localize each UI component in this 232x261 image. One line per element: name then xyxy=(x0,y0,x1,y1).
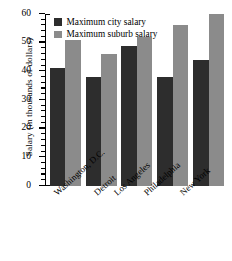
y-tick-major: 60 xyxy=(39,13,45,14)
y-tick-minor xyxy=(41,65,45,66)
y-tick-major: 50 xyxy=(39,41,45,42)
y-tick-label: 10 xyxy=(22,151,32,161)
y-tick-minor xyxy=(41,179,45,180)
legend-label-city: Maximum city salary xyxy=(67,16,147,28)
y-tick-major: 30 xyxy=(39,99,45,100)
y-tick-major: 0 xyxy=(39,185,45,186)
y-tick-minor xyxy=(41,87,45,88)
y-tick-minor xyxy=(41,24,45,25)
chart-legend: Maximum city salary Maximum suburb salar… xyxy=(54,16,157,41)
y-tick-minor xyxy=(41,139,45,140)
y-tick-minor xyxy=(41,53,45,54)
y-tick-minor xyxy=(41,47,45,48)
y-tick-minor xyxy=(41,173,45,174)
y-tick-minor xyxy=(41,168,45,169)
y-tick-minor xyxy=(41,110,45,111)
y-tick-minor xyxy=(41,116,45,117)
y-tick-major: 20 xyxy=(39,127,45,128)
y-tick-minor xyxy=(41,93,45,94)
y-tick-minor xyxy=(41,145,45,146)
y-tick-minor xyxy=(41,59,45,60)
y-tick-minor xyxy=(41,151,45,152)
legend-item-city: Maximum city salary xyxy=(54,16,157,28)
y-tick-major: 40 xyxy=(39,70,45,71)
y-tick-minor xyxy=(41,105,45,106)
y-tick-minor xyxy=(41,162,45,163)
y-tick-minor xyxy=(41,133,45,134)
legend-item-suburb: Maximum suburb salary xyxy=(54,28,157,40)
bar-chart-figure: Salary (in thousands of dollars) 0102030… xyxy=(0,0,232,261)
bar-suburb xyxy=(101,54,117,186)
y-tick-minor xyxy=(41,36,45,37)
bar-city xyxy=(50,68,66,186)
y-tick-label: 40 xyxy=(22,65,32,75)
bar-suburb xyxy=(209,14,225,186)
y-tick-major: 10 xyxy=(39,156,45,157)
y-tick-minor xyxy=(41,76,45,77)
y-tick-label: 30 xyxy=(22,94,32,104)
legend-swatch-suburb-icon xyxy=(54,31,62,39)
bar-suburb xyxy=(65,40,81,186)
bar-group xyxy=(193,14,227,186)
y-tick-label: 60 xyxy=(22,8,32,18)
y-tick-minor xyxy=(41,19,45,20)
y-tick-label: 50 xyxy=(22,36,32,46)
legend-swatch-city-icon xyxy=(54,18,62,26)
y-tick-minor xyxy=(41,30,45,31)
legend-label-suburb: Maximum suburb salary xyxy=(67,28,158,40)
y-tick-minor xyxy=(41,122,45,123)
y-tick-label: 0 xyxy=(26,180,31,190)
bar-city xyxy=(121,46,137,186)
y-tick-label: 20 xyxy=(22,122,32,132)
y-tick-minor xyxy=(41,82,45,83)
